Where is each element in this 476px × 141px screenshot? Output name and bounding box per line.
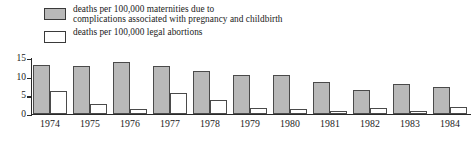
bar-group — [393, 58, 427, 114]
bar — [433, 87, 450, 114]
y-tick-label: 0 — [21, 109, 26, 120]
bar — [393, 84, 410, 114]
legend-label-maternities: deaths per 100,000 maternities due to co… — [73, 4, 283, 24]
y-tick-label: 15 — [17, 53, 27, 64]
x-tick-label: 1981 — [313, 118, 347, 129]
bar — [90, 104, 107, 114]
x-tick-label: 1979 — [233, 118, 267, 129]
bar-group — [233, 58, 267, 114]
bar-chart-figure: deaths per 100,000 maternities due to co… — [0, 0, 476, 141]
y-tick-label: 10 — [17, 72, 27, 83]
bar — [233, 75, 250, 114]
y-axis-line — [31, 58, 32, 115]
bar — [313, 82, 330, 114]
y-tick-mark — [27, 96, 32, 97]
legend-swatch-gray — [44, 8, 66, 20]
x-tick-label: 1983 — [393, 118, 427, 129]
plot-area: 051015 197419751976197719781979198019811… — [0, 52, 476, 141]
bar-group — [113, 58, 147, 114]
axes: 051015 — [31, 58, 471, 115]
y-tick-mark — [27, 59, 32, 60]
x-tick-label: 1974 — [33, 118, 67, 129]
bar — [330, 111, 347, 114]
bar-group — [153, 58, 187, 114]
x-tick-label: 1978 — [193, 118, 227, 129]
x-tick-label: 1980 — [273, 118, 307, 129]
bar — [250, 108, 267, 114]
x-tick-label: 1982 — [353, 118, 387, 129]
x-axis-tick-labels: 1974197519761977197819791980198119821983… — [33, 118, 473, 129]
x-tick-label: 1976 — [113, 118, 147, 129]
bar — [353, 90, 370, 114]
bar-group — [433, 58, 467, 114]
x-tick-label: 1977 — [153, 118, 187, 129]
chart-legend: deaths per 100,000 maternities due to co… — [44, 4, 374, 46]
bar — [410, 111, 427, 114]
bar — [50, 91, 67, 113]
bar-group — [33, 58, 67, 114]
bar — [170, 93, 187, 114]
legend-label-abortions: deaths per 100,000 legal abortions — [73, 27, 203, 38]
bar — [113, 62, 130, 114]
bar — [210, 100, 227, 113]
legend-entry-abortions: deaths per 100,000 legal abortions — [44, 27, 374, 43]
bar-group — [353, 58, 387, 114]
bar — [273, 75, 290, 113]
bar — [73, 66, 90, 114]
bar-group — [313, 58, 347, 114]
bar — [153, 66, 170, 114]
bar — [33, 65, 50, 114]
bar-group-container — [33, 58, 473, 114]
legend-swatch-white — [44, 31, 66, 43]
bar — [130, 109, 147, 113]
bar-group — [73, 58, 107, 114]
bar-group — [193, 58, 227, 114]
bar — [450, 107, 467, 113]
bar — [370, 108, 387, 114]
y-tick-mark — [27, 78, 32, 79]
bar — [290, 109, 307, 114]
legend-entry-maternities: deaths per 100,000 maternities due to co… — [44, 4, 374, 24]
y-tick-label: 5 — [21, 90, 26, 101]
bar-group — [273, 58, 307, 114]
y-tick-mark — [27, 115, 32, 116]
bar — [193, 71, 210, 114]
x-tick-label: 1984 — [433, 118, 467, 129]
x-axis-line — [31, 114, 471, 115]
x-tick-label: 1975 — [73, 118, 107, 129]
